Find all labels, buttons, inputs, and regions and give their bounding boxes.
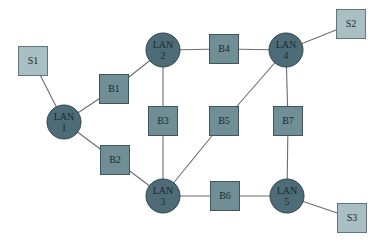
bridge-b6: B6 [211, 182, 240, 211]
lan-lan1: LAN1 [47, 105, 81, 139]
bridge-label: B1 [108, 83, 120, 94]
lan-lan3: LAN3 [146, 179, 180, 213]
server-label: S3 [347, 212, 358, 223]
lan-label-line1: LAN [153, 185, 174, 196]
bridge-label: B5 [218, 115, 230, 126]
bridge-b1: B1 [100, 75, 129, 104]
lan-label-line1: LAN [277, 185, 298, 196]
lan-label-line2: 1 [62, 122, 67, 133]
server-s3: S3 [338, 204, 367, 233]
lan-lan5: LAN5 [270, 179, 304, 213]
nodes-layer: B1B2B3B4B5B6B7S1S2S3LAN1LAN2LAN3LAN4LAN5 [19, 10, 367, 233]
server-s2: S2 [337, 10, 366, 39]
bridge-b4: B4 [210, 35, 239, 64]
bridge-b5: B5 [210, 107, 239, 136]
bridge-label: B4 [218, 43, 230, 54]
lan-lan2: LAN2 [146, 33, 180, 67]
bridge-b2: B2 [101, 146, 130, 175]
bridge-label: B2 [109, 154, 121, 165]
lan-label-line2: 5 [285, 196, 290, 207]
lan-label-line1: LAN [54, 111, 75, 122]
network-diagram: B1B2B3B4B5B6B7S1S2S3LAN1LAN2LAN3LAN4LAN5 [0, 0, 386, 243]
lan-label-line2: 4 [284, 50, 289, 61]
server-label: S2 [346, 18, 357, 29]
server-s1: S1 [19, 47, 48, 76]
lan-lan4: LAN4 [269, 33, 303, 67]
bridge-label: B7 [282, 115, 294, 126]
bridge-b3: B3 [149, 107, 178, 136]
server-label: S1 [28, 55, 39, 66]
lan-label-line1: LAN [153, 39, 174, 50]
bridge-label: B3 [157, 115, 169, 126]
bridge-b7: B7 [274, 107, 303, 136]
lan-label-line1: LAN [276, 39, 297, 50]
lan-label-line2: 2 [161, 50, 166, 61]
lan-label-line2: 3 [161, 196, 166, 207]
bridge-label: B6 [219, 190, 231, 201]
